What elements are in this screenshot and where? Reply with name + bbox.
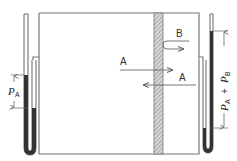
arrow-b-label: B <box>176 28 183 39</box>
membrane <box>154 13 163 154</box>
left-manometer: P A <box>7 14 36 155</box>
arrow-b-reflected: B <box>163 28 189 49</box>
arrow-a-forward: A <box>120 56 172 70</box>
pressure-b-right-subscript: B <box>224 71 231 76</box>
pressure-a-subscript: A <box>15 91 20 98</box>
arrow-a-backward: A <box>144 72 196 85</box>
pressure-b-right-label: P <box>218 76 230 84</box>
pressure-a-right-label: P <box>218 104 230 112</box>
pressure-a-label: P <box>7 85 15 97</box>
arrow-a-backward-label: A <box>179 72 186 83</box>
right-manometer: P A + P B <box>203 14 231 153</box>
arrow-a-forward-label: A <box>120 56 127 67</box>
pressure-a-right-subscript: A <box>224 99 231 104</box>
osmosis-diagram: P A P A + P B A A <box>0 0 237 161</box>
plus-sign: + <box>219 88 230 94</box>
